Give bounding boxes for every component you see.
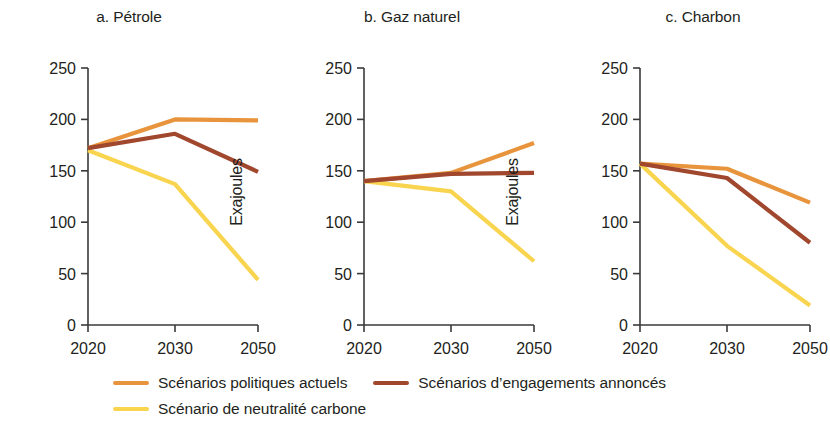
svg-text:2050: 2050 bbox=[516, 340, 552, 357]
svg-text:200: 200 bbox=[49, 111, 76, 128]
svg-text:0: 0 bbox=[343, 317, 352, 334]
svg-text:250: 250 bbox=[325, 60, 352, 77]
svg-text:2030: 2030 bbox=[157, 340, 193, 357]
svg-text:150: 150 bbox=[325, 163, 352, 180]
svg-text:100: 100 bbox=[601, 214, 628, 231]
legend-label-engagements-annonces: Scénarios d’engagements annoncés bbox=[418, 374, 666, 392]
legend-item-politiques-actuels: Scénarios politiques actuels bbox=[113, 374, 347, 392]
svg-text:200: 200 bbox=[601, 111, 628, 128]
svg-text:250: 250 bbox=[601, 60, 628, 77]
svg-text:2050: 2050 bbox=[240, 340, 276, 357]
chart-legend: Scénarios politiques actuels Scénarios d… bbox=[0, 372, 830, 425]
legend-swatch-line-icon bbox=[113, 407, 149, 411]
y-axis-label-gaz-naturel: Exajoules bbox=[228, 132, 246, 252]
svg-text:2030: 2030 bbox=[709, 340, 745, 357]
legend-label-neutralite-carbone: Scénario de neutralité carbone bbox=[158, 400, 366, 418]
svg-text:0: 0 bbox=[67, 317, 76, 334]
legend-label-politiques-actuels: Scénarios politiques actuels bbox=[158, 374, 347, 392]
svg-text:150: 150 bbox=[601, 163, 628, 180]
svg-text:100: 100 bbox=[325, 214, 352, 231]
panel-charbon: c. Charbon Exajoules 0501001502002502020… bbox=[552, 0, 828, 372]
y-axis-label-charbon: Exajoules bbox=[504, 132, 522, 252]
svg-text:2030: 2030 bbox=[433, 340, 469, 357]
svg-text:2020: 2020 bbox=[346, 340, 382, 357]
svg-text:200: 200 bbox=[325, 111, 352, 128]
svg-text:50: 50 bbox=[58, 266, 76, 283]
legend-item-neutralite-carbone: Scénario de neutralité carbone bbox=[113, 400, 366, 418]
svg-text:50: 50 bbox=[334, 266, 352, 283]
legend-swatch-line-icon bbox=[373, 381, 409, 385]
svg-text:100: 100 bbox=[49, 214, 76, 231]
svg-text:150: 150 bbox=[49, 163, 76, 180]
svg-text:50: 50 bbox=[610, 266, 628, 283]
energy-scenarios-figure: a. Pétrole Exajoules 0501001502002502020… bbox=[0, 0, 830, 425]
legend-row-1: Scénarios politiques actuels Scénarios d… bbox=[0, 374, 830, 392]
svg-text:2050: 2050 bbox=[792, 340, 828, 357]
svg-text:0: 0 bbox=[619, 317, 628, 334]
legend-swatch-line-icon bbox=[113, 381, 149, 385]
svg-text:250: 250 bbox=[49, 60, 76, 77]
legend-item-engagements-annonces: Scénarios d’engagements annoncés bbox=[373, 374, 666, 392]
plot-area-charbon: 050100150200250202020302050 bbox=[552, 0, 828, 372]
svg-text:2020: 2020 bbox=[622, 340, 658, 357]
svg-text:2020: 2020 bbox=[70, 340, 106, 357]
legend-row-2: Scénario de neutralité carbone bbox=[0, 400, 830, 418]
panel-row: a. Pétrole Exajoules 0501001502002502020… bbox=[0, 0, 830, 372]
